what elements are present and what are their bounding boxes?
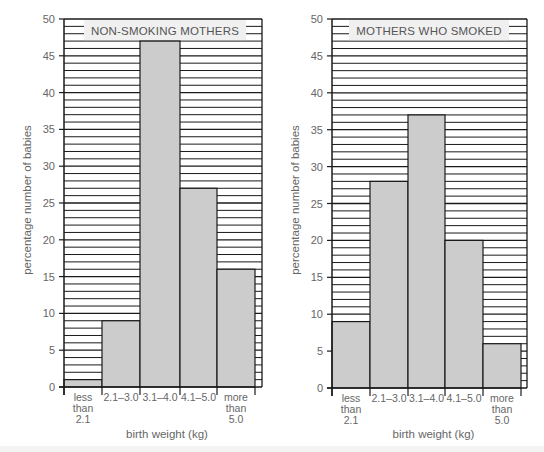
x-category-label: 4.1–5.0 xyxy=(181,391,216,403)
bar xyxy=(445,240,483,388)
bar xyxy=(217,269,255,387)
x-axis-title: birth weight (kg) xyxy=(126,428,208,440)
y-tick-label: 5 xyxy=(49,344,55,356)
bar xyxy=(102,321,140,387)
bar xyxy=(64,380,102,387)
x-category-label: 4.1–5.0 xyxy=(446,392,481,404)
y-tick-label: 0 xyxy=(49,381,55,393)
x-category-label: 3.1–4.0 xyxy=(142,391,177,403)
y-tick-label: 35 xyxy=(43,123,55,135)
y-tick-label: 25 xyxy=(311,198,323,210)
y-tick-label: 20 xyxy=(43,234,55,246)
y-tick-label: 15 xyxy=(311,271,323,283)
y-tick-label: 10 xyxy=(311,308,323,320)
x-category-label: 2.1 xyxy=(76,413,91,425)
chart-title: NON-SMOKING MOTHERS xyxy=(91,25,239,37)
y-tick-label: 45 xyxy=(311,50,323,62)
y-tick-label: 50 xyxy=(43,13,55,25)
x-category-label: 5.0 xyxy=(229,413,244,425)
y-tick-label: 30 xyxy=(43,160,55,172)
y-tick-label: 20 xyxy=(311,234,323,246)
y-tick-label: 45 xyxy=(43,50,55,62)
y-tick-label: 10 xyxy=(43,307,55,319)
y-tick-label: 15 xyxy=(43,271,55,283)
y-tick-label: 5 xyxy=(317,345,323,357)
y-tick-label: 50 xyxy=(311,13,323,25)
y-tick-label: 40 xyxy=(311,87,323,99)
y-tick-label: 35 xyxy=(311,124,323,136)
chart-non-smoking: NON-SMOKING MOTHERS05101520253035404550l… xyxy=(21,13,262,440)
x-category-label: 5.0 xyxy=(495,414,510,426)
y-axis-title: percentage number of babies xyxy=(21,125,33,275)
y-axis-title: percentage number of babies xyxy=(289,125,301,275)
x-category-label: 2.1–3.0 xyxy=(103,391,138,403)
x-category-label: 2.1 xyxy=(344,414,359,426)
x-axis-title: birth weight (kg) xyxy=(393,428,475,440)
bar xyxy=(483,344,521,388)
bar xyxy=(370,181,408,388)
bar xyxy=(180,188,217,387)
bar xyxy=(332,322,370,388)
x-category-label: 2.1–3.0 xyxy=(371,392,406,404)
y-tick-label: 0 xyxy=(317,382,323,394)
histogram-figure: NON-SMOKING MOTHERS05101520253035404550l… xyxy=(0,0,544,452)
chart-title: MOTHERS WHO SMOKED xyxy=(356,25,501,37)
y-tick-label: 25 xyxy=(43,197,55,209)
bar xyxy=(140,41,180,387)
y-tick-label: 30 xyxy=(311,161,323,173)
bar xyxy=(408,115,445,388)
chart-smoking: MOTHERS WHO SMOKED05101520253035404550le… xyxy=(289,13,527,440)
x-category-label: 3.1–4.0 xyxy=(409,392,444,404)
y-tick-label: 40 xyxy=(43,87,55,99)
